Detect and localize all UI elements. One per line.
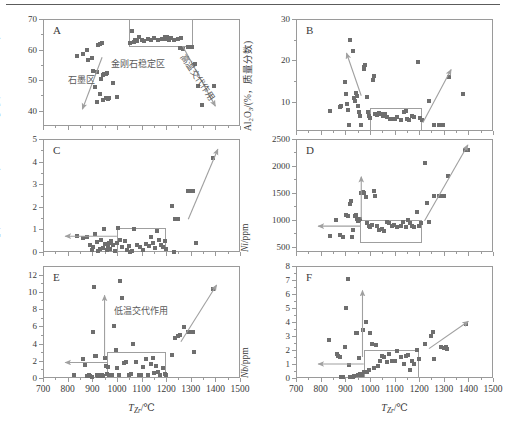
data-point <box>385 360 389 364</box>
data-point <box>406 353 410 357</box>
y-tickmark <box>292 294 296 295</box>
y-minor-tickmark <box>294 301 297 302</box>
x-tickmark <box>419 378 420 382</box>
x-minor-tickmark <box>456 378 457 380</box>
x-tick-label: 700 <box>289 384 303 394</box>
y-minor-tickmark <box>294 329 297 330</box>
y-minor-tickmark <box>294 287 297 288</box>
y-tickmark <box>292 336 296 337</box>
x-tick-label: 900 <box>338 384 352 394</box>
zone-box-f <box>364 350 419 378</box>
x-minor-tickmark <box>358 378 359 380</box>
y-minor-tickmark <box>294 273 297 274</box>
data-point <box>341 375 345 379</box>
y-minor-tickmark <box>294 343 297 344</box>
x-tickmark <box>321 378 322 382</box>
x-minor-tickmark <box>407 378 408 380</box>
data-point <box>355 331 359 335</box>
data-point <box>376 364 380 368</box>
x-tick-label: 1100 <box>385 384 404 394</box>
data-point <box>367 368 371 372</box>
data-point <box>415 348 419 352</box>
x-tick-label: 1500 <box>484 384 503 394</box>
y-tickmark <box>292 280 296 281</box>
y-tick-label: 7 <box>252 275 290 285</box>
x-tick-label: 1300 <box>434 384 453 394</box>
data-point <box>347 363 351 367</box>
data-point <box>431 330 435 334</box>
data-point <box>346 277 350 281</box>
y-tickmark <box>292 266 296 267</box>
data-point <box>395 349 399 353</box>
data-point <box>364 320 368 324</box>
data-point <box>399 355 403 359</box>
y-tick-label: 5 <box>252 303 290 313</box>
data-point <box>429 334 433 338</box>
x-tick-label: 1400 <box>459 384 478 394</box>
figure-root: A40506070Cr2O3/(%，质量分数)B102030Al2O3/(%，质… <box>0 0 506 426</box>
x-axis-label: TZr/℃ <box>381 402 407 415</box>
data-point <box>378 359 382 363</box>
y-tickmark <box>292 364 296 365</box>
annotation-low-temp-metasomatism: 低温交代作用 <box>114 304 168 317</box>
data-point <box>368 331 372 335</box>
data-point <box>374 343 378 347</box>
x-tickmark <box>493 378 494 382</box>
y-minor-tickmark <box>294 315 297 316</box>
data-point <box>402 362 406 366</box>
data-point <box>423 342 427 346</box>
x-tick-label: 1000 <box>360 384 379 394</box>
data-point <box>382 355 386 359</box>
data-point <box>327 338 331 342</box>
x-tickmark <box>370 378 371 382</box>
x-tick-label: 800 <box>314 384 328 394</box>
y-tick-label: 0 <box>252 373 290 383</box>
data-point <box>464 322 468 326</box>
data-point <box>344 306 348 310</box>
panel-letter-f: F <box>306 271 312 283</box>
x-minor-tickmark <box>481 378 482 380</box>
data-point <box>393 359 397 363</box>
data-point <box>338 355 342 359</box>
x-tickmark <box>444 378 445 382</box>
y-axis-label-f: Nb/ppm <box>240 347 250 378</box>
y-minor-tickmark <box>294 357 297 358</box>
x-minor-tickmark <box>382 378 383 380</box>
x-minor-tickmark <box>308 378 309 380</box>
y-tick-label: 3 <box>252 331 290 341</box>
x-tickmark <box>468 378 469 382</box>
y-tick-label: 8 <box>252 261 290 271</box>
data-point <box>412 362 416 366</box>
data-point <box>361 328 365 332</box>
data-point <box>432 357 436 361</box>
data-point <box>343 345 347 349</box>
y-tickmark <box>292 322 296 323</box>
y-tick-label: 1 <box>252 359 290 369</box>
y-tick-label: 2 <box>252 345 290 355</box>
annotation-graphite-zone: 石墨区 <box>68 73 95 86</box>
data-point <box>387 352 391 356</box>
x-minor-tickmark <box>333 378 334 380</box>
panel-f: F012345678700800900100011001200130014001… <box>0 0 506 426</box>
x-tickmark <box>395 378 396 382</box>
x-tickmark <box>345 378 346 382</box>
data-point <box>408 368 412 372</box>
data-point <box>357 356 361 360</box>
annotation-diamond-stable-zone: 金刚石稳定区 <box>111 57 165 70</box>
y-tickmark <box>292 350 296 351</box>
x-tickmark <box>296 378 297 382</box>
y-tickmark <box>292 308 296 309</box>
data-point <box>417 357 421 361</box>
y-tick-label: 4 <box>252 317 290 327</box>
x-tick-label: 1200 <box>410 384 429 394</box>
y-minor-tickmark <box>294 371 297 372</box>
y-tick-label: 6 <box>252 289 290 299</box>
data-point <box>445 347 449 351</box>
x-minor-tickmark <box>431 378 432 380</box>
